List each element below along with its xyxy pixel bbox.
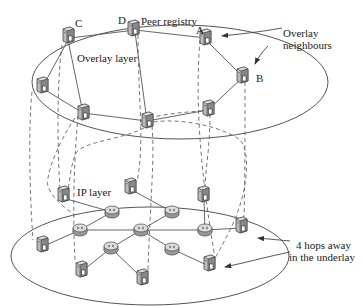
label-overlay-layer: Overlay layer <box>77 52 137 64</box>
label-overlay-neighbours-2: neighbours <box>283 39 332 51</box>
server-icon-overlay[interactable] <box>142 112 153 128</box>
server-icon-ip[interactable] <box>37 236 48 252</box>
router-icon[interactable] <box>165 206 179 218</box>
label-peer-registry: Peer registry <box>141 15 197 27</box>
mapping-lines <box>30 35 247 272</box>
router-icon[interactable] <box>73 224 87 236</box>
server-icon-ip[interactable] <box>76 261 87 277</box>
server-icon-overlay[interactable] <box>203 100 214 116</box>
router-icon[interactable] <box>198 224 212 236</box>
server-icon-ip[interactable] <box>236 217 247 233</box>
label-node-a: A <box>196 24 204 36</box>
server-icon-c[interactable] <box>63 27 74 43</box>
label-node-b: B <box>256 72 263 84</box>
server-icon-overlay[interactable] <box>37 77 48 93</box>
server-icon-b[interactable] <box>237 67 248 83</box>
label-ip-layer: IP layer <box>77 186 111 198</box>
server-icon-ip[interactable] <box>137 269 148 285</box>
diagram-canvas: C D Peer registry A B Overlay layer Over… <box>0 0 363 306</box>
annotation-arrows <box>222 28 290 267</box>
server-icon-ip[interactable] <box>58 186 69 202</box>
ip-routers <box>73 206 212 255</box>
server-icon-ip[interactable] <box>204 255 215 271</box>
label-node-c: C <box>75 17 82 29</box>
network-diagram: C D Peer registry A B Overlay layer Over… <box>0 0 363 306</box>
label-hops-2: in the underlay <box>289 251 355 263</box>
server-icon-ip[interactable] <box>125 178 136 194</box>
server-icon-d[interactable] <box>128 20 139 36</box>
router-icon[interactable] <box>105 206 119 218</box>
server-icon-overlay[interactable] <box>78 104 89 120</box>
router-icon[interactable] <box>104 242 118 254</box>
router-icon[interactable] <box>165 243 179 255</box>
router-icon[interactable] <box>134 224 148 236</box>
label-hops-1: 4 hops away <box>296 239 351 251</box>
label-node-d: D <box>118 14 126 26</box>
label-overlay-neighbours-1: Overlay <box>283 27 319 39</box>
server-icon-ip[interactable] <box>198 186 209 202</box>
overlay-nodes <box>37 20 248 128</box>
